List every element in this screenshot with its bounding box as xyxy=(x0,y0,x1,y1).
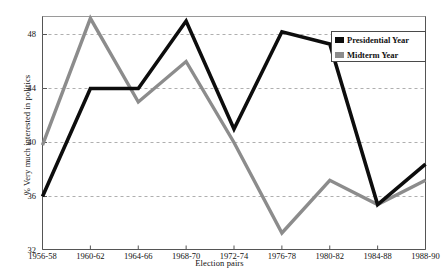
legend-item-midterm-year: Midterm Year xyxy=(335,48,425,62)
legend-item-presidential-year: Presidential Year xyxy=(335,33,425,47)
legend-label: Midterm Year xyxy=(347,50,398,60)
y-tick-marks xyxy=(43,35,48,197)
legend-swatch-icon xyxy=(335,37,344,43)
x-tick-marks xyxy=(43,246,426,250)
x-axis-title: Election pairs xyxy=(0,258,439,268)
y-axis-title: % Very much interested in politics xyxy=(22,30,32,240)
legend-swatch-icon xyxy=(335,52,344,58)
chart-legend: Presidential YearMidterm Year xyxy=(331,31,426,62)
legend-label: Presidential Year xyxy=(347,35,409,45)
